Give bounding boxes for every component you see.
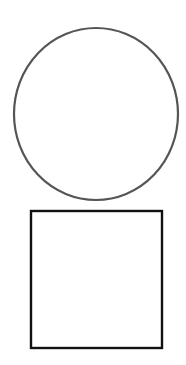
circle-shape <box>14 28 178 200</box>
square-shape <box>31 211 162 348</box>
diagram-canvas <box>0 0 186 365</box>
